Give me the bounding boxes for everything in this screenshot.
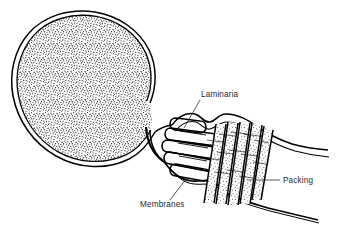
gauze-packing xyxy=(198,117,280,211)
anatomical-illustration: Laminaria Packing Membranes xyxy=(0,0,337,233)
laminaria-rod-5 xyxy=(170,164,210,181)
label-membranes: Membranes xyxy=(140,200,185,209)
label-laminaria: Laminaria xyxy=(201,90,239,99)
label-packing: Packing xyxy=(283,176,313,185)
figure-root: Laminaria Packing Membranes xyxy=(0,0,337,233)
gestational-sac xyxy=(8,8,172,173)
leader-membranes xyxy=(170,179,186,200)
